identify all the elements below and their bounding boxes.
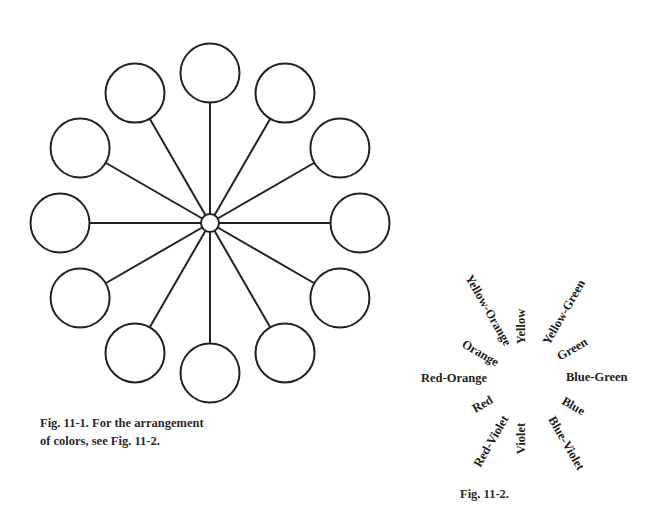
color-circle bbox=[181, 344, 240, 403]
center-hub bbox=[201, 214, 219, 232]
color-circle bbox=[106, 64, 165, 123]
color-circle bbox=[310, 269, 369, 328]
color-label-red-orange: Red-Orange bbox=[421, 371, 487, 386]
spoke-line bbox=[210, 223, 270, 327]
color-label-yellow: Yellow bbox=[514, 308, 529, 343]
color-label-blue-green: Blue-Green bbox=[566, 370, 628, 385]
spoke-line bbox=[106, 163, 210, 223]
spoke-line bbox=[210, 119, 270, 223]
spoke-line bbox=[210, 223, 314, 283]
color-label-violet: Violet bbox=[514, 422, 529, 453]
spoke-line bbox=[150, 119, 210, 223]
color-circle bbox=[331, 194, 390, 253]
spoke-line bbox=[106, 223, 210, 283]
color-circle bbox=[181, 44, 240, 103]
color-circle bbox=[106, 323, 165, 382]
color-circle bbox=[310, 119, 369, 178]
spoke-line bbox=[150, 223, 210, 327]
color-circle bbox=[256, 64, 315, 123]
color-circle bbox=[256, 323, 315, 382]
color-circle bbox=[31, 194, 90, 253]
figure-2-caption: Fig. 11-2. bbox=[460, 485, 509, 503]
figure-1-caption: Fig. 11-1. For the arrangement of colors… bbox=[40, 414, 204, 450]
spoke-line bbox=[210, 163, 314, 223]
figure-1-caption-line-1: Fig. 11-1. For the arrangement bbox=[40, 414, 204, 432]
figure-1-caption-line-2: of colors, see Fig. 11-2. bbox=[40, 432, 204, 450]
color-circle bbox=[51, 269, 110, 328]
color-circle bbox=[51, 119, 110, 178]
